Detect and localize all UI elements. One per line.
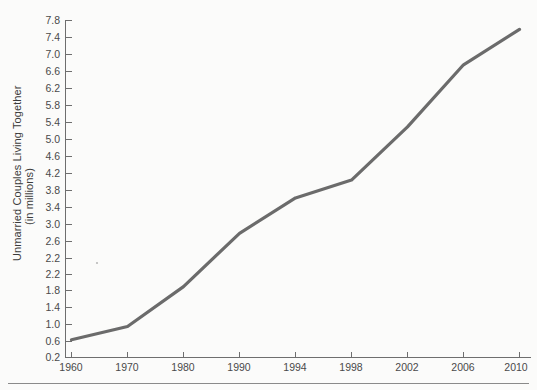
y-tick: 6.6 — [45, 65, 71, 77]
y-tick-label: 0.2 — [45, 351, 60, 363]
x-tick: 1994 — [283, 352, 307, 374]
x-tick-label: 1980 — [171, 361, 195, 373]
y-tick: 1.8 — [45, 284, 71, 296]
x-tick: 1980 — [171, 352, 195, 374]
y-tick: 3.8 — [45, 184, 71, 196]
y-tick-label: 7.0 — [45, 48, 60, 60]
y-tick-label: 2.6 — [45, 235, 60, 247]
y-tick: 2.2 — [45, 268, 71, 280]
x-tick-label: 2002 — [395, 361, 419, 373]
y-tick: 1.4 — [45, 301, 71, 313]
line-chart: Unmarried Couples Living Together (in mi… — [0, 0, 537, 390]
y-tick-label: 1.4 — [45, 301, 60, 313]
x-tick-label: 2006 — [451, 361, 475, 373]
y-tick: 2.6 — [45, 235, 71, 247]
x-tick: 2002 — [395, 352, 419, 374]
x-tick: 2010 — [504, 352, 528, 374]
y-tick: 5.4 — [45, 116, 71, 128]
y-tick-label-extra: 2.2 — [45, 268, 60, 280]
y-tick-label: 5.8 — [45, 99, 60, 111]
y-tick-label: 5.0 — [45, 133, 60, 145]
y-axis-label-line1: Unmarried Couples Living Together — [11, 85, 23, 261]
y-tick-label: 3.8 — [45, 184, 60, 196]
y-axis-ticks: 7.8 7.4 7.0 6.6 6.2 5.8 5.4 5.0 4.6 4.2 … — [45, 14, 71, 363]
y-tick: 4.6 — [45, 150, 71, 162]
x-tick-label: 1998 — [339, 361, 363, 373]
x-tick-label: 1970 — [115, 361, 139, 373]
x-tick: 2006 — [451, 352, 475, 374]
x-tick: 1990 — [227, 352, 251, 374]
y-tick: 2.2 — [45, 252, 71, 264]
y-tick: 5.8 — [45, 99, 71, 111]
y-tick: 5.0 — [45, 133, 71, 145]
y-tick-label: 6.6 — [45, 65, 60, 77]
y-tick-label: 3.0 — [45, 218, 60, 230]
chart-container: Unmarried Couples Living Together (in mi… — [0, 0, 537, 390]
x-tick-label: 2010 — [504, 361, 528, 373]
y-tick-label: 0.6 — [45, 335, 60, 347]
y-tick-label: 7.4 — [45, 31, 60, 43]
y-tick: 3.4 — [45, 201, 71, 213]
y-axis-label: Unmarried Couples Living Together (in mi… — [11, 85, 35, 261]
y-tick-label: 1.8 — [45, 284, 60, 296]
y-tick-label: 2.2 — [45, 252, 60, 264]
y-tick: 7.4 — [45, 31, 71, 43]
x-axis-ticks: 1960 1970 1980 1990 1994 1998 2002 2006 … — [59, 352, 528, 374]
y-tick-label: 7.8 — [45, 14, 60, 26]
y-tick-label: 3.4 — [45, 201, 60, 213]
y-tick: 0.6 — [45, 335, 71, 347]
y-tick-label: 1.0 — [45, 318, 60, 330]
y-tick: 3.0 — [45, 218, 71, 230]
y-tick: 6.2 — [45, 82, 71, 94]
x-tick-label: 1990 — [227, 361, 251, 373]
x-tick: 1998 — [339, 352, 363, 374]
scan-speck — [96, 262, 98, 264]
x-tick-label: 1960 — [59, 361, 83, 373]
y-tick-label: 6.2 — [45, 82, 60, 94]
x-tick-label: 1994 — [283, 361, 307, 373]
y-tick: 7.8 — [45, 14, 71, 26]
y-axis-label-line2: (in millions) — [23, 168, 35, 225]
y-tick-label: 4.6 — [45, 150, 60, 162]
x-tick: 1960 — [59, 352, 83, 374]
y-tick: 7.0 — [45, 48, 71, 60]
y-tick: 0.2 — [45, 351, 60, 363]
y-tick-label: 4.2 — [45, 167, 60, 179]
y-tick: 4.2 — [45, 167, 71, 179]
y-tick: 1.0 — [45, 318, 71, 330]
data-line-series — [72, 29, 520, 339]
y-tick-label: 5.4 — [45, 116, 60, 128]
x-tick: 1970 — [115, 352, 139, 374]
